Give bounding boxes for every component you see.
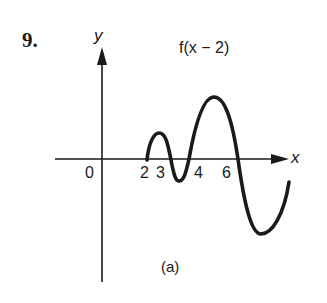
x-axis-arrow-icon xyxy=(271,154,289,164)
figure-caption: (a) xyxy=(161,258,179,275)
x-tick-3: 3 xyxy=(156,164,165,182)
x-axis-label: x xyxy=(291,148,300,168)
y-axis-arrow-icon xyxy=(97,47,107,65)
x-tick-6: 6 xyxy=(222,164,231,182)
function-curve xyxy=(147,97,289,234)
x-tick-4: 4 xyxy=(194,164,203,182)
origin-label: 0 xyxy=(85,164,94,182)
x-tick-2: 2 xyxy=(140,164,149,182)
problem-number: 9. xyxy=(22,28,38,53)
y-axis-label: y xyxy=(94,26,103,46)
function-label: f(x − 2) xyxy=(179,39,229,57)
